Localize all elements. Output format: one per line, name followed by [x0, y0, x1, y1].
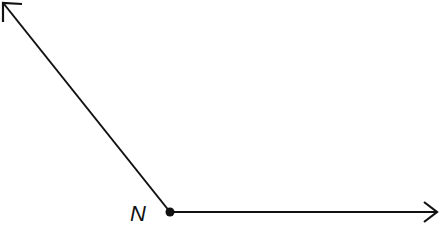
vertex-point [166, 208, 175, 217]
angle-diagram: N [0, 0, 443, 245]
vertex-label: N [130, 201, 146, 226]
ray-upper-left [4, 4, 170, 212]
